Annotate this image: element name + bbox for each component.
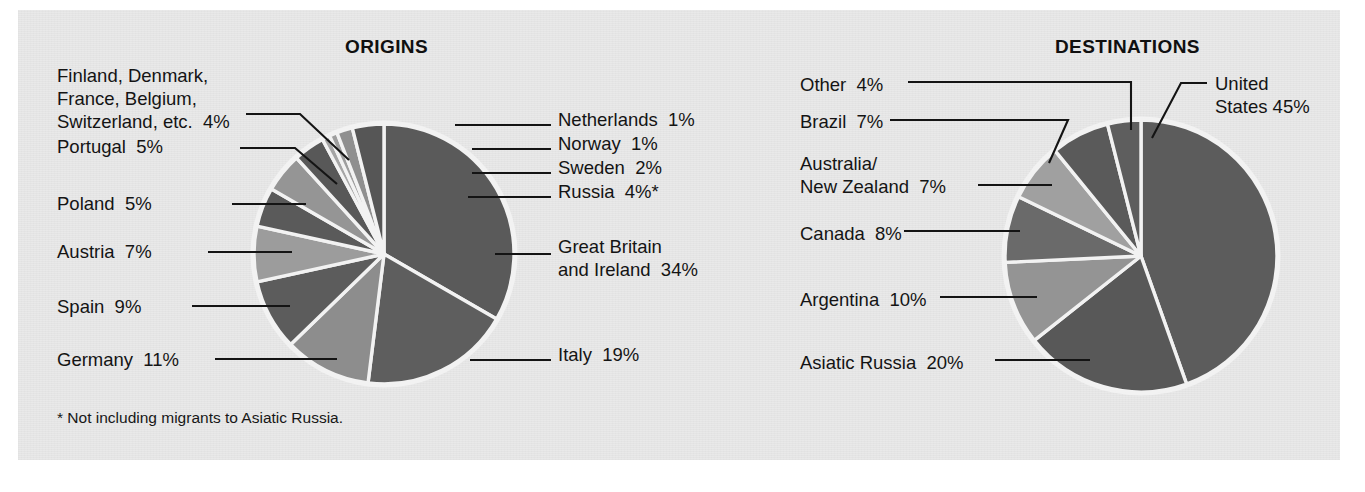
destinations-label-australia-nz: Australia/ New Zealand 7% bbox=[800, 152, 946, 198]
destinations-label-asiatic-russia: Asiatic Russia 20% bbox=[800, 351, 963, 374]
destinations-label-brazil: Brazil 7% bbox=[800, 110, 883, 133]
destinations-label-united-states: United States 45% bbox=[1215, 72, 1310, 118]
leader-line-0 bbox=[908, 82, 1131, 130]
destinations-slice-group bbox=[1002, 117, 1281, 396]
infographic-figure: ORIGINS Finland, Denmark, France, Belgiu… bbox=[0, 0, 1365, 492]
destinations-label-other: Other 4% bbox=[800, 73, 883, 96]
destinations-label-argentina: Argentina 10% bbox=[800, 288, 927, 311]
destinations-label-canada: Canada 8% bbox=[800, 222, 902, 245]
destinations-pie-chart bbox=[0, 0, 1365, 492]
